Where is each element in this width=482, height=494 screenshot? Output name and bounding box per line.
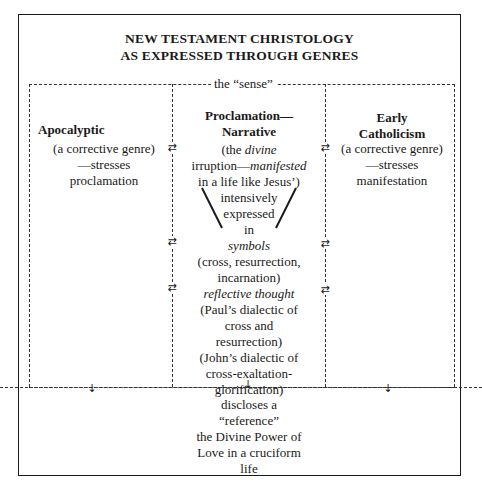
exchange-arrow-icon: ⇄ bbox=[318, 238, 332, 249]
early-catholicism-heading-1: Early bbox=[330, 110, 454, 125]
result-line-3: the Divine Power of bbox=[160, 429, 338, 444]
early-catholicism-line-2: —stresses bbox=[330, 157, 454, 172]
down-arrow-icon: ↓ bbox=[243, 379, 253, 390]
result-line-1: discloses a bbox=[160, 397, 338, 412]
funnel-right-line bbox=[276, 188, 296, 228]
early-catholicism-line-3: manifestation bbox=[330, 173, 454, 188]
result-line-4: Love in a cruciform bbox=[160, 445, 338, 460]
funnel-left-line bbox=[202, 188, 222, 228]
exchange-arrow-icon: ⇄ bbox=[318, 284, 332, 295]
early-catholicism-line-1: (a corrective genre) bbox=[330, 141, 454, 156]
exchange-arrow-icon: ⇄ bbox=[165, 282, 179, 293]
down-arrow-icon: ↓ bbox=[87, 383, 97, 394]
exchange-arrow-icon: ⇄ bbox=[165, 142, 179, 153]
result-line-5: life bbox=[160, 461, 338, 476]
exchange-arrow-icon: ⇄ bbox=[318, 142, 332, 153]
result-line-2: “reference” bbox=[160, 413, 338, 428]
exchange-arrow-icon: ⇄ bbox=[165, 236, 179, 247]
down-arrow-icon: ↓ bbox=[383, 383, 393, 394]
early-catholicism-heading-2: Catholicism bbox=[330, 126, 454, 141]
